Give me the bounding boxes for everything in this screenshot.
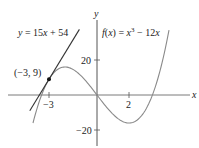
tangent-equation-label: y = 15x + 54 bbox=[17, 27, 68, 38]
function-equation-label: f(x) = x3 − 12x bbox=[102, 26, 160, 39]
y-tick-label-20: 20 bbox=[81, 55, 91, 66]
x-tick-label-neg3: −3 bbox=[43, 99, 54, 110]
x-tick-label-2: 2 bbox=[126, 99, 131, 110]
y-tick-label-neg20: −20 bbox=[76, 125, 92, 136]
x-axis-label: x bbox=[191, 89, 197, 100]
tangent-point-marker bbox=[47, 77, 51, 81]
tangent-point-label: (−3, 9) bbox=[14, 67, 41, 79]
function-tangent-plot: −3 2 20 −20 x y (−3, 9) y = 15x + 54 f(x… bbox=[0, 0, 199, 148]
y-axis-label: y bbox=[93, 8, 99, 19]
